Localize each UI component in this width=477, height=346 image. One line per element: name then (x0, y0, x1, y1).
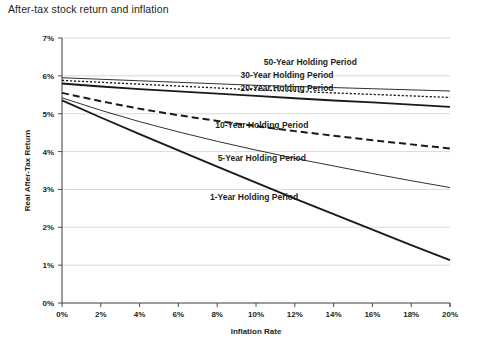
x-tick-label: 8% (211, 310, 223, 319)
x-tick-label: 16% (364, 310, 380, 319)
series-label-1-year-holding-period: 1-Year Holding Period (210, 192, 298, 202)
x-tickmarks (62, 303, 450, 307)
series-lines (62, 78, 450, 260)
x-tick-labels: 0%2%4%6%8%10%12%14%16%18%20% (56, 310, 458, 319)
x-tick-label: 0% (56, 310, 68, 319)
y-tick-label: 1% (42, 261, 54, 270)
y-tick-label: 5% (42, 110, 54, 119)
x-tick-label: 12% (287, 310, 303, 319)
y-tick-label: 7% (42, 34, 54, 43)
y-tick-label: 3% (42, 185, 54, 194)
x-axis-title: Inflation Rate (231, 327, 282, 336)
series-label-30-year-holding-period: 30-Year Holding Period (241, 70, 334, 80)
y-axis-title: Real After-Tax Return (23, 130, 32, 211)
y-tickmarks (58, 38, 62, 303)
series-label-10-year-holding-period: 10-Year Holding Period (215, 120, 308, 130)
x-tick-label: 2% (95, 310, 107, 319)
y-tick-label: 4% (42, 148, 54, 157)
x-tick-label: 10% (248, 310, 264, 319)
series-label-50-year-holding-period: 50-Year Holding Period (264, 57, 357, 67)
x-tick-label: 20% (442, 310, 458, 319)
chart-figure: 0%2%4%6%8%10%12%14%16%18%20% 0%1%2%3%4%5… (0, 0, 477, 346)
series-label-5-year-holding-period: 5-Year Holding Period (218, 153, 306, 163)
y-tick-label: 0% (42, 299, 54, 308)
y-tick-label: 6% (42, 72, 54, 81)
x-tick-label: 18% (403, 310, 419, 319)
y-tick-label: 2% (42, 223, 54, 232)
x-tick-label: 14% (326, 310, 342, 319)
series-label-20-year-holding-period: 20-Year Holding Period (241, 83, 334, 93)
x-tick-label: 6% (173, 310, 185, 319)
x-tick-label: 4% (134, 310, 146, 319)
y-tick-labels: 0%1%2%3%4%5%6%7% (42, 34, 54, 308)
series-labels: 50-Year Holding Period30-Year Holding Pe… (210, 57, 357, 202)
